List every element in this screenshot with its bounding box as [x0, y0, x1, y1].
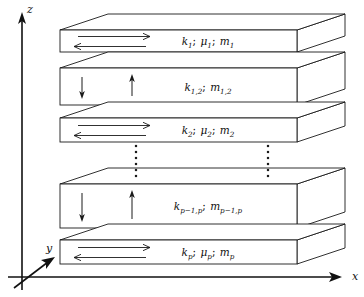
slab-top-face	[60, 52, 345, 68]
axis-label-z: z	[27, 4, 33, 15]
axis-label-y: y	[46, 243, 52, 254]
slab-front-face	[60, 240, 297, 264]
slab-top-face	[60, 102, 345, 118]
ellipsis-dot	[267, 157, 269, 159]
layered-medium-diagram: k1; μ1; m1k1,2; m1,2k2; μ2; m2kp−1,p; mp…	[0, 0, 364, 297]
slab-top-face	[60, 168, 345, 184]
slab-top-face	[60, 14, 345, 30]
ellipsis-dot	[135, 169, 137, 171]
ellipsis-dot	[267, 163, 269, 165]
ellipsis-dot	[135, 145, 137, 147]
slab-front-face	[60, 118, 297, 142]
slab-top-face	[60, 224, 345, 240]
axis-label-x: x	[352, 271, 358, 282]
ellipsis-dot	[267, 169, 269, 171]
ellipsis-dot	[135, 151, 137, 153]
ellipsis-dot	[267, 145, 269, 147]
slab-label-layer-p-1-p: kp−1,p; mp−1,p	[174, 201, 242, 212]
ellipsis-dot	[267, 151, 269, 153]
slab-layer-1-2	[60, 52, 345, 105]
axis-x	[8, 272, 342, 282]
slab-label-layer-1-2: k1,2; m1,2	[184, 81, 231, 92]
slab-group	[60, 14, 345, 264]
axis-y	[14, 257, 55, 288]
slab-layer-2	[60, 102, 345, 142]
slab-label-layer-1: k1; μ1; m1	[182, 36, 235, 47]
slab-front-face	[60, 30, 297, 52]
slab-layer-p	[60, 224, 345, 264]
ellipsis-dot	[267, 175, 269, 177]
ellipsis-dot	[135, 163, 137, 165]
slab-front-face	[60, 68, 297, 105]
ellipsis-dot	[135, 175, 137, 177]
ellipsis-dot	[135, 157, 137, 159]
axis-z	[18, 12, 26, 290]
slab-layer-p-1-p	[60, 168, 345, 228]
slab-label-layer-2: k2; μ2; m2	[182, 125, 235, 136]
slab-label-layer-p: kp; μp; mp	[182, 247, 235, 258]
